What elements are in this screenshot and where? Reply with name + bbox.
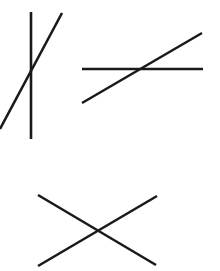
diagram-canvas <box>0 0 220 271</box>
line-pair-vertical-diagonal <box>0 12 62 139</box>
line-pair-x-cross <box>38 195 157 266</box>
line-pair-horizontal-diagonal <box>82 33 203 103</box>
